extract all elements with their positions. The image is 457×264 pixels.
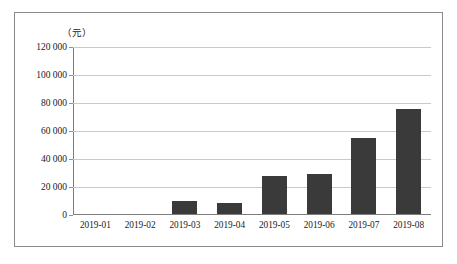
x-axis-line [73, 214, 431, 215]
x-tick-label: 2019-07 [348, 220, 379, 230]
bar [172, 201, 197, 214]
y-tick-mark [69, 159, 73, 160]
y-tick-label: 60 000 [41, 126, 67, 136]
bar [262, 176, 287, 214]
y-tick-mark [69, 47, 73, 48]
x-tick-label: 2019-01 [80, 220, 111, 230]
y-tick-label: 40 000 [41, 154, 67, 164]
bar [307, 174, 332, 214]
bar [217, 203, 242, 214]
gridline [73, 159, 431, 160]
gridline [73, 187, 431, 188]
gridline [73, 131, 431, 132]
bar [396, 109, 421, 214]
y-tick-mark [69, 103, 73, 104]
bar [351, 138, 376, 214]
x-tick-label: 2019-04 [214, 220, 245, 230]
x-tick-label: 2019-05 [259, 220, 290, 230]
y-tick-label: 100 000 [36, 70, 67, 80]
chart-figure: （元） 020 00040 00060 00080 000100 000120 … [14, 12, 443, 247]
y-tick-mark [69, 131, 73, 132]
x-tick-label: 2019-03 [169, 220, 200, 230]
y-tick-mark [69, 215, 73, 216]
gridline [73, 103, 431, 104]
plot-area: 020 00040 00060 00080 000100 000120 000 … [73, 47, 431, 215]
y-tick-mark [69, 75, 73, 76]
y-tick-label: 80 000 [41, 98, 67, 108]
x-tick-label: 2019-02 [125, 220, 156, 230]
gridline [73, 75, 431, 76]
y-axis-unit-caption: （元） [62, 25, 93, 39]
y-tick-label: 0 [62, 210, 67, 220]
x-tick-label: 2019-08 [393, 220, 424, 230]
gridline [73, 47, 431, 48]
y-tick-label: 120 000 [36, 42, 67, 52]
y-tick-label: 20 000 [41, 182, 67, 192]
y-tick-mark [69, 187, 73, 188]
x-tick-label: 2019-06 [304, 220, 335, 230]
